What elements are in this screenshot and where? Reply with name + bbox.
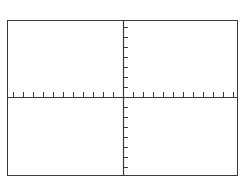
quadrant-I	[123, 20, 238, 97]
quadrant-II	[7, 20, 123, 97]
coordinate-plane-figure	[0, 0, 246, 183]
quadrant-III	[7, 97, 123, 176]
quadrant-IV	[123, 97, 238, 176]
coordinate-grid-svg	[0, 0, 246, 183]
quadrant-group	[7, 20, 238, 176]
